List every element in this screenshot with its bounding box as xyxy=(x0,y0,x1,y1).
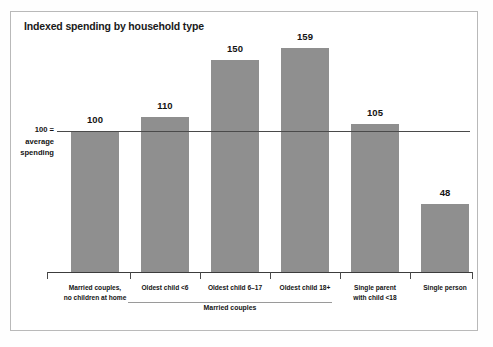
bar-value-label: 150 xyxy=(211,43,259,54)
x-axis-tick xyxy=(472,272,473,279)
bar-value-label: 105 xyxy=(351,107,399,118)
group-bracket-label: Married couples xyxy=(128,304,332,311)
category-label-line-2: no children at home xyxy=(49,293,141,303)
y-axis-label-line-2: average xyxy=(6,136,54,148)
x-axis-tick xyxy=(47,272,48,279)
bar-oldest-child-18-plus xyxy=(281,48,329,272)
bar-married-no-children xyxy=(71,131,119,272)
bar-value-label: 100 xyxy=(71,114,119,125)
x-axis-tick xyxy=(270,272,271,279)
bar-value-label: 48 xyxy=(421,187,469,198)
bar-oldest-child-6-17 xyxy=(211,60,259,272)
y-axis-label-line-1: 100 = xyxy=(6,124,54,136)
reference-line-100 xyxy=(57,131,470,132)
category-label-line-1: Single person xyxy=(400,283,490,293)
bar-value-label: 159 xyxy=(281,31,329,42)
bar-single-parent xyxy=(351,124,399,272)
x-axis-tick xyxy=(410,272,411,279)
chart-figure: Indexed spending by household type 100 =… xyxy=(0,0,493,347)
category-label-line-2: with child <18 xyxy=(330,293,420,303)
x-axis-tick xyxy=(130,272,131,279)
x-axis-tick xyxy=(200,272,201,279)
y-axis-reference-label: 100 = average spending xyxy=(6,124,54,159)
x-axis-tick xyxy=(340,272,341,279)
plot-area: 100 = average spending 100 110 150 159 1… xyxy=(0,0,493,347)
bar-single-person xyxy=(421,204,469,272)
bar-oldest-child-under-6 xyxy=(141,117,189,272)
group-bracket-line xyxy=(128,302,332,303)
x-axis-category-label: Single person xyxy=(400,283,490,293)
y-axis-label-line-3: spending xyxy=(6,147,54,159)
bar-value-label: 110 xyxy=(141,100,189,111)
